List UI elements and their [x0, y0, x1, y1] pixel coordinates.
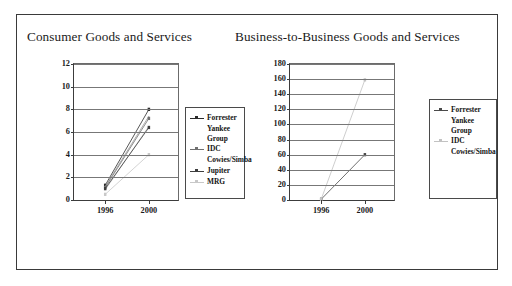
x-tick-mark [321, 200, 322, 204]
series-line-4 [105, 127, 149, 188]
gridline [74, 64, 178, 65]
y-tick-label: 100 [274, 120, 286, 128]
legend-label: IDC [207, 144, 221, 154]
y-tick-mark [287, 79, 290, 80]
gridline [74, 177, 178, 178]
y-tick-mark [287, 94, 290, 95]
y-tick-label: 140 [274, 90, 286, 98]
gridline [74, 87, 178, 88]
series-lines-b2b [290, 64, 394, 200]
gridline [290, 94, 394, 95]
plot-b2b: 02040608010012014016018019962000 [263, 59, 395, 227]
figure-frame: Consumer Goods and Services 024681012199… [16, 14, 498, 270]
data-point-marker [148, 126, 150, 129]
gridline [74, 132, 178, 133]
chart-title-b2b: Business-to-Business Goods and Services [235, 29, 460, 45]
y-tick-label: 0 [66, 196, 70, 204]
y-tick-label: 20 [278, 181, 286, 189]
data-point-marker [148, 117, 150, 120]
gridline [290, 170, 394, 171]
y-tick-mark [71, 177, 74, 178]
gridline [74, 109, 178, 110]
y-tick-mark [287, 109, 290, 110]
legend-marker-icon [434, 106, 448, 115]
legend-marker-icon [434, 137, 448, 146]
series-line-0 [321, 155, 365, 200]
gridline [290, 124, 394, 125]
y-tick-label: 6 [66, 128, 70, 136]
y-tick-mark [287, 64, 290, 65]
legend-marker-icon [190, 167, 204, 176]
series-line-1 [105, 116, 149, 186]
x-tick-label: 1996 [313, 206, 330, 215]
gridline [290, 79, 394, 80]
y-tick-label: 160 [274, 75, 286, 83]
data-point-marker [104, 187, 106, 190]
legend-marker-icon [190, 114, 204, 123]
legend-b2b: ForresterYankee GroupIDCCowies/Simba [429, 99, 497, 199]
data-point-marker [104, 193, 106, 196]
y-tick-mark [71, 87, 74, 88]
legend-item[interactable]: Yankee Group [434, 116, 491, 135]
y-tick-label: 120 [274, 105, 286, 113]
legend-label: Yankee Group [451, 116, 474, 135]
legend-marker-icon [434, 117, 448, 126]
series-line-0 [105, 109, 149, 185]
y-tick-mark [71, 132, 74, 133]
x-tick-label: 2000 [357, 206, 374, 215]
y-tick-label: 60 [278, 151, 286, 159]
gridline [290, 64, 394, 65]
legend-label: MRG [207, 177, 225, 187]
y-tick-mark [287, 200, 290, 201]
gridline [290, 155, 394, 156]
gridline [290, 185, 394, 186]
y-tick-mark [287, 185, 290, 186]
y-tick-label: 4 [66, 151, 70, 159]
y-tick-mark [287, 140, 290, 141]
y-tick-label: 8 [66, 105, 70, 113]
legend-label: Forrester [451, 105, 481, 115]
y-tick-label: 180 [274, 60, 286, 68]
y-tick-mark [71, 64, 74, 65]
gridline [74, 155, 178, 156]
y-tick-mark [287, 155, 290, 156]
x-tick-mark [365, 200, 366, 204]
legend-marker-icon [190, 125, 204, 134]
y-tick-mark [287, 124, 290, 125]
plot-area-b2b: 02040608010012014016018019962000 [289, 63, 395, 201]
chart-panel-consumer: Consumer Goods and Services 024681012199… [17, 15, 249, 269]
y-tick-label: 12 [62, 60, 70, 68]
y-tick-mark [71, 155, 74, 156]
x-tick-label: 2000 [141, 206, 158, 215]
y-tick-label: 40 [278, 166, 286, 174]
legend-item[interactable]: Forrester [434, 105, 491, 115]
legend-label: Jupiter [207, 166, 230, 176]
legend-marker-icon [190, 156, 204, 165]
y-tick-label: 0 [282, 196, 286, 204]
legend-marker-icon [434, 148, 448, 157]
x-tick-mark [105, 200, 106, 204]
y-tick-label: 80 [278, 135, 286, 143]
legend-label: Cowies/Simba [451, 147, 496, 157]
y-tick-mark [71, 109, 74, 110]
x-tick-label: 1996 [97, 206, 114, 215]
legend-item[interactable]: Cowies/Simba [434, 147, 491, 157]
y-tick-mark [287, 170, 290, 171]
legend-marker-icon [190, 178, 204, 187]
legend-marker-icon [190, 145, 204, 154]
gridline [290, 140, 394, 141]
y-tick-label: 2 [66, 173, 70, 181]
plot-area-consumer: 02468101219962000 [73, 63, 179, 201]
legend-item[interactable]: IDC [434, 136, 491, 146]
y-tick-mark [71, 200, 74, 201]
y-tick-label: 10 [62, 83, 70, 91]
plot-consumer: 02468101219962000 [47, 59, 179, 227]
gridline [290, 109, 394, 110]
legend-label: IDC [451, 136, 465, 146]
chart-panel-b2b: Business-to-Business Goods and Services … [231, 15, 499, 269]
chart-title-consumer: Consumer Goods and Services [27, 29, 192, 45]
x-tick-mark [149, 200, 150, 204]
